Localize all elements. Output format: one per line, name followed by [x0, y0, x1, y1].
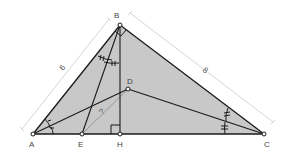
label-a: A — [29, 140, 35, 149]
diagram-canvas: A B C D E H 6 8 ? — [0, 0, 295, 160]
point-a — [31, 132, 35, 136]
label-d: D — [127, 77, 133, 86]
dimension-label-bc: 8 — [201, 65, 210, 75]
point-c — [262, 132, 266, 136]
point-h — [118, 132, 122, 136]
point-b — [118, 23, 122, 27]
label-c: C — [264, 140, 270, 149]
point-d — [126, 87, 130, 91]
geometry-diagram: A B C D E H 6 8 ? — [0, 0, 295, 160]
point-e — [80, 132, 84, 136]
label-h: H — [117, 140, 123, 149]
label-e: E — [78, 140, 83, 149]
dimension-label-ab: 6 — [58, 63, 68, 73]
label-b: B — [114, 11, 119, 20]
